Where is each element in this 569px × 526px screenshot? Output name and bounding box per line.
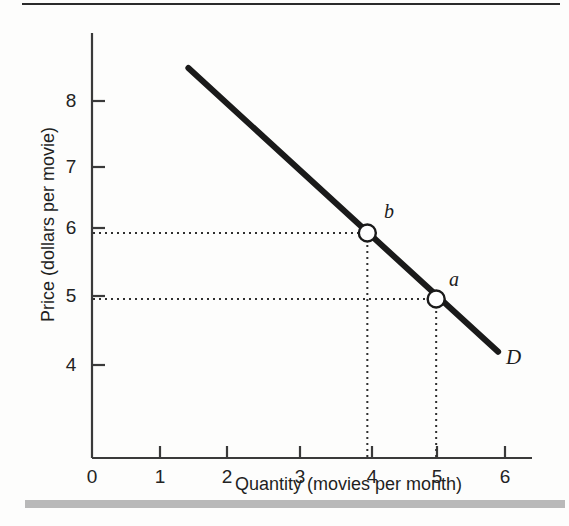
x-tick-label-0: 0 [79,466,105,488]
data-point-b-label: b [384,200,394,223]
x-tick-label-1: 1 [147,466,173,488]
data-point-a-marker [428,291,445,308]
y-tick-label-8: 8 [58,90,84,112]
data-point-a-label: a [449,268,459,291]
data-point-b-marker [359,225,376,242]
y-tick-label-4: 4 [58,354,84,376]
figure-container: 8 7 6 5 4 0 1 2 3 4 5 6 Price (dollars p… [0,0,569,526]
bottom-gray-band [25,500,565,508]
x-tick-label-6: 6 [492,466,518,488]
demand-curve-plot [0,0,569,526]
y-tick-label-7: 7 [58,156,84,178]
guide-lines [93,233,436,457]
y-tick-label-6: 6 [58,217,84,239]
x-axis-title: Quantity (movies per month) [235,474,462,495]
demand-curve-label: D [506,345,521,370]
y-axis-title: Price (dollars per movie) [38,127,59,322]
demand-curve-line [188,68,498,352]
x-axis-ticks [160,446,505,458]
y-tick-label-5: 5 [58,285,84,307]
